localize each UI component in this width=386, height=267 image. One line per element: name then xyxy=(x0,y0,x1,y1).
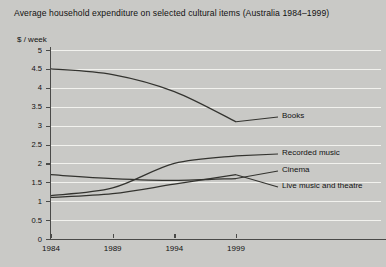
y-tick-label: 5 xyxy=(16,46,42,55)
y-tick xyxy=(46,145,50,146)
y-tick-label: 2.5 xyxy=(16,140,42,149)
y-tick xyxy=(46,69,50,70)
gridline xyxy=(51,107,381,108)
y-tick xyxy=(46,182,50,183)
plot-area xyxy=(51,47,381,239)
y-tick-label: 1.5 xyxy=(16,178,42,187)
y-tick xyxy=(46,50,50,51)
y-tick-label: 0.5 xyxy=(16,216,42,225)
x-tick xyxy=(113,234,114,238)
y-tick-label: 1 xyxy=(16,197,42,206)
y-tick-label: 4.5 xyxy=(16,64,42,73)
y-tick xyxy=(46,88,50,89)
y-tick-label: 3 xyxy=(16,121,42,130)
y-tick xyxy=(46,107,50,108)
series-label-books: Books xyxy=(282,111,304,120)
series-label-cinema: Cinema xyxy=(282,165,310,174)
chart-figure: Average household expenditure on selecte… xyxy=(0,0,386,267)
y-axis-label: $ / week xyxy=(17,35,47,44)
gridline xyxy=(51,88,381,89)
x-tick-label: 1984 xyxy=(31,244,71,253)
y-tick-label: 2 xyxy=(16,159,42,168)
gridline xyxy=(51,50,381,51)
gridline xyxy=(51,220,381,221)
y-tick xyxy=(46,201,50,202)
x-tick xyxy=(51,234,52,238)
series-label-recorded-music: Recorded music xyxy=(282,148,340,157)
gridline xyxy=(51,201,381,202)
series-label-live-music-and-theatre: Live music and theatre xyxy=(282,181,363,190)
y-tick-label: 3.5 xyxy=(16,102,42,111)
y-tick xyxy=(46,239,50,240)
chart-title: Average household expenditure on selecte… xyxy=(14,8,329,18)
gridline xyxy=(51,69,381,70)
y-tick xyxy=(46,220,50,221)
x-tick xyxy=(174,234,175,238)
x-tick-label: 1994 xyxy=(154,244,194,253)
x-tick-label: 1989 xyxy=(93,244,133,253)
y-tick-label: 4 xyxy=(16,83,42,92)
y-axis-line xyxy=(50,47,51,240)
y-tick-label: 0 xyxy=(16,235,42,244)
gridline xyxy=(51,145,381,146)
y-tick xyxy=(46,126,50,127)
y-tick xyxy=(46,163,50,164)
x-tick-label: 1999 xyxy=(216,244,256,253)
x-axis-line xyxy=(50,239,386,240)
x-tick xyxy=(236,234,237,238)
gridline xyxy=(51,126,381,127)
gridline xyxy=(51,163,381,164)
